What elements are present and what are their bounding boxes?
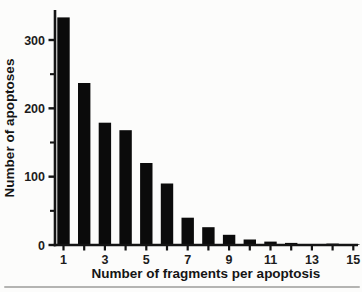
x-tick-label: 9: [226, 253, 233, 267]
x-tick-label: 1: [60, 253, 67, 267]
bar-chart-figure: Number of apoptoses Number of fragments …: [0, 0, 362, 292]
bar: [161, 184, 173, 246]
plot-area: 010020030013579111315: [24, 10, 360, 267]
x-tick-label: 11: [264, 253, 277, 267]
bar: [119, 130, 131, 245]
bar: [78, 83, 90, 245]
x-tick-label: 5: [143, 253, 150, 267]
y-tick-label: 300: [24, 34, 45, 48]
bar: [57, 17, 69, 245]
y-tick-label: 0: [38, 239, 45, 253]
bottom-divider: [4, 286, 360, 288]
y-tick-label: 100: [24, 170, 45, 184]
bar: [223, 235, 235, 245]
bar: [182, 218, 194, 245]
bar: [202, 227, 214, 245]
x-tick-label: 13: [305, 253, 319, 267]
y-axis-title: Number of apoptoses: [2, 59, 17, 198]
x-axis-title: Number of fragments per apoptosis: [92, 266, 321, 281]
bar: [140, 163, 152, 245]
x-tick-label: 3: [101, 253, 108, 267]
x-tick-label: 15: [346, 253, 360, 267]
x-tick-label: 7: [184, 253, 191, 267]
y-tick-label: 200: [24, 102, 45, 116]
bar: [99, 123, 111, 245]
chart-canvas: Number of apoptoses Number of fragments …: [0, 0, 362, 292]
